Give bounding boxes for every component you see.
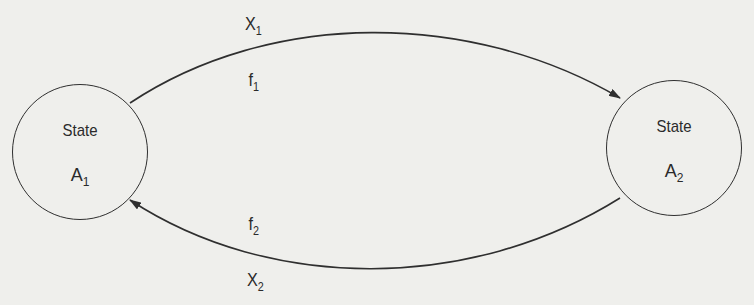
state-node-a2: State A2	[606, 80, 742, 216]
state-node-a1: State A1	[12, 84, 148, 220]
state-diagram: State A1 State A2 X1 f1 f2 X2	[0, 0, 754, 305]
edge-label-f1: f1	[249, 70, 260, 91]
edge-label-f2: f2	[249, 214, 260, 235]
edge-label-x1: X1	[245, 14, 262, 35]
state-name: A1	[13, 165, 147, 186]
state-name: A2	[607, 161, 741, 182]
state-title: State	[615, 117, 733, 137]
transition-arrow-a2-to-a1	[130, 198, 620, 269]
state-title: State	[21, 121, 139, 141]
edge-label-x2: X2	[247, 270, 264, 291]
transition-arrow-a1-to-a2	[130, 33, 620, 103]
